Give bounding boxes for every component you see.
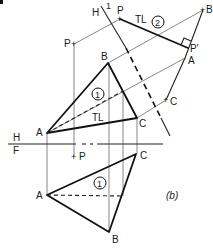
descriptive-geometry-diagram: H F H 1 1 TL A B C P + 1 A B C + P (0, 0, 213, 248)
front-view-plane-number: 1 (97, 179, 102, 189)
fold-line-h1-end (161, 118, 170, 136)
top-view-tl-label: TL (92, 112, 104, 123)
top-point-a-label: A (36, 127, 43, 138)
front-view-horizontal-line (47, 195, 123, 196)
aux-tl-label: TL (135, 14, 147, 25)
aux-point-c-label: C (170, 96, 177, 107)
top-view-plane-number: 1 (95, 90, 100, 100)
front-point-c-label: C (140, 150, 147, 161)
aux-point-c-cross: + (163, 95, 168, 105)
top-point-c-label: C (139, 118, 146, 129)
fold-label-f: F (13, 145, 19, 156)
fold-label-h: H (13, 132, 20, 143)
top-point-b-label: B (101, 51, 108, 62)
front-point-b-label: B (112, 234, 119, 245)
aux-point-a-label: A (188, 55, 195, 66)
front-view: 1 A B C + P (36, 150, 147, 245)
projector-c-aux (137, 100, 166, 118)
front-point-a-label: A (36, 190, 43, 201)
fold-label-h-aux: H (92, 7, 99, 18)
fold-label-1: 1 (106, 1, 111, 11)
front-point-p-cross: + (71, 152, 76, 162)
auxiliary-view-1: 2 TL P + B + P' A C + (117, 4, 213, 107)
projector-p-aux (74, 19, 120, 44)
aux-point-p-prime-label: P' (190, 43, 199, 54)
aux-line-number: 2 (155, 18, 160, 28)
front-point-p-label: P (79, 151, 86, 162)
figure-caption: (b) (166, 190, 178, 201)
aux-point-p-cross: + (117, 14, 122, 24)
top-point-p-cross: + (71, 39, 76, 49)
top-point-p-label: P (64, 38, 71, 49)
aux-point-b-label: B (206, 4, 213, 15)
aux-plane-edge-view (166, 10, 203, 100)
aux-point-b-cross: + (200, 5, 205, 15)
